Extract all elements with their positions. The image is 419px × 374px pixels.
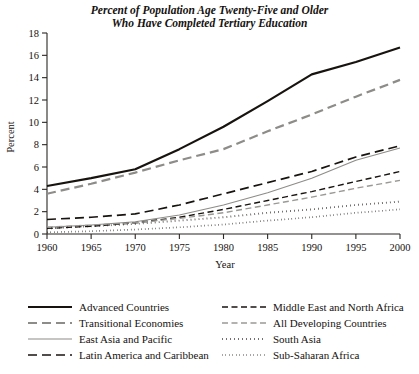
y-tick-label: 16 bbox=[29, 50, 40, 61]
y-axis-title: Percent bbox=[5, 121, 16, 153]
legend-item[interactable]: Sub-Saharan Africa bbox=[222, 349, 360, 361]
x-axis-title: Year bbox=[215, 259, 235, 270]
legend-item[interactable]: Transitional Economies bbox=[28, 317, 183, 329]
y-axis: 024681012141618 bbox=[29, 28, 48, 240]
series-line bbox=[47, 171, 400, 228]
legend-label: Transitional Economies bbox=[79, 317, 183, 329]
y-tick-label: 14 bbox=[29, 72, 40, 83]
chart-title-line-1: Percent of Population Age Twenty-Five an… bbox=[91, 4, 329, 17]
chart-figure: Percent of Population Age Twenty-Five an… bbox=[0, 0, 419, 374]
legend-item[interactable]: Middle East and North Africa bbox=[222, 301, 404, 313]
y-tick-label: 2 bbox=[34, 206, 39, 217]
x-tick-label: 1975 bbox=[169, 242, 190, 253]
legend-label: Advanced Countries bbox=[79, 301, 169, 313]
y-tick-label: 0 bbox=[34, 229, 39, 240]
x-tick-label: 1995 bbox=[345, 242, 366, 253]
chart-legend: Advanced CountriesTransitional Economies… bbox=[28, 301, 404, 361]
legend-label: All Developing Countries bbox=[273, 317, 387, 329]
legend-label: South Asia bbox=[273, 333, 321, 345]
x-tick-label: 1965 bbox=[81, 242, 102, 253]
legend-item[interactable]: South Asia bbox=[222, 333, 321, 345]
series-line bbox=[47, 180, 400, 227]
x-tick-label: 1960 bbox=[37, 242, 58, 253]
legend-label: Sub-Saharan Africa bbox=[273, 349, 360, 361]
legend-label: East Asia and Pacific bbox=[79, 333, 172, 345]
x-tick-label: 1970 bbox=[125, 242, 146, 253]
legend-label: Latin America and Caribbean bbox=[79, 349, 209, 361]
x-tick-label: 1980 bbox=[213, 242, 234, 253]
series-lines bbox=[47, 48, 400, 233]
series-line bbox=[47, 146, 400, 220]
y-tick-label: 18 bbox=[29, 28, 40, 39]
legend-label: Middle East and North Africa bbox=[273, 301, 404, 313]
y-tick-label: 12 bbox=[29, 95, 40, 106]
x-tick-label: 2000 bbox=[390, 242, 411, 253]
y-tick-label: 8 bbox=[34, 139, 39, 150]
series-line bbox=[47, 148, 400, 227]
x-axis: 196019651970197519801985199019952000 bbox=[37, 234, 411, 253]
x-tick-label: 1985 bbox=[257, 242, 278, 253]
legend-item[interactable]: Advanced Countries bbox=[28, 301, 169, 313]
series-line bbox=[47, 209, 400, 232]
legend-item[interactable]: East Asia and Pacific bbox=[28, 333, 172, 345]
chart-title-line-2: Who Have Completed Tertiary Education bbox=[112, 17, 308, 30]
legend-item[interactable]: All Developing Countries bbox=[222, 317, 387, 329]
y-tick-label: 6 bbox=[34, 162, 39, 173]
tertiary-education-line-chart: Percent of Population Age Twenty-Five an… bbox=[0, 0, 419, 374]
legend-item[interactable]: Latin America and Caribbean bbox=[28, 349, 209, 361]
chart-title: Percent of Population Age Twenty-Five an… bbox=[91, 4, 329, 30]
y-tick-label: 10 bbox=[29, 117, 40, 128]
y-tick-label: 4 bbox=[34, 184, 40, 195]
x-tick-label: 1990 bbox=[301, 242, 322, 253]
series-line bbox=[47, 48, 400, 186]
